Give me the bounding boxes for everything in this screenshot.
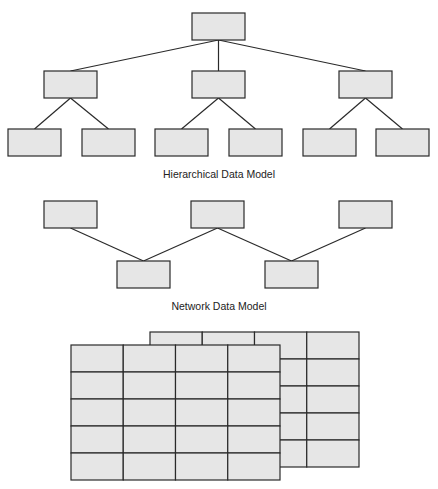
network-caption: Network Data Model — [171, 300, 266, 312]
network-edges — [71, 228, 366, 261]
network-link — [218, 228, 292, 261]
table-cell — [123, 453, 175, 480]
table-cell — [71, 372, 123, 399]
root-node — [192, 13, 245, 40]
network-node — [117, 261, 170, 288]
table-cell — [307, 413, 359, 440]
table-cell — [71, 345, 123, 372]
table-cell — [176, 399, 228, 426]
table-cell — [71, 399, 123, 426]
hierarchy-node — [44, 71, 97, 98]
network-node — [339, 201, 392, 228]
hierarchical-caption: Hierarchical Data Model — [163, 168, 275, 180]
hierarchy-node — [192, 71, 245, 98]
hierarchy-edge — [71, 98, 109, 129]
data-models-diagram: Hierarchical Data Model Network Data Mod… — [0, 0, 438, 489]
network-node — [191, 201, 244, 228]
table-cell — [228, 345, 280, 372]
table-cell — [123, 399, 175, 426]
table-cell — [307, 386, 359, 413]
relational-tables — [71, 332, 359, 480]
table-cell — [307, 332, 359, 359]
network-node — [44, 201, 97, 228]
hierarchy-edge — [330, 98, 366, 129]
network-nodes — [44, 201, 392, 288]
network-link — [292, 228, 366, 261]
table-cell — [123, 426, 175, 453]
hierarchy-node — [376, 129, 429, 156]
table-cell — [176, 345, 228, 372]
table-cell — [176, 426, 228, 453]
table-cell — [71, 453, 123, 480]
hierarchical-nodes — [8, 13, 429, 156]
table-cell — [176, 453, 228, 480]
table-cell — [228, 372, 280, 399]
table-cell — [307, 359, 359, 386]
front-table — [71, 345, 280, 480]
table-cell — [123, 345, 175, 372]
hierarchy-node — [155, 129, 208, 156]
table-cell — [228, 399, 280, 426]
hierarchy-edge — [35, 98, 71, 129]
table-cell — [123, 372, 175, 399]
network-link — [144, 228, 218, 261]
hierarchy-edge — [219, 40, 366, 71]
hierarchy-node — [303, 129, 356, 156]
table-cell — [307, 440, 359, 467]
table-cell — [228, 453, 280, 480]
hierarchy-edge — [219, 98, 256, 129]
hierarchy-node — [82, 129, 135, 156]
hierarchy-edge — [182, 98, 219, 129]
hierarchy-edge — [71, 40, 219, 71]
table-cell — [228, 426, 280, 453]
hierarchy-edge — [366, 98, 403, 129]
network-link — [71, 228, 144, 261]
hierarchy-node — [339, 71, 392, 98]
hierarchy-node — [229, 129, 282, 156]
hierarchy-node — [8, 129, 61, 156]
table-cell — [176, 372, 228, 399]
network-node — [265, 261, 318, 288]
table-cell — [71, 426, 123, 453]
